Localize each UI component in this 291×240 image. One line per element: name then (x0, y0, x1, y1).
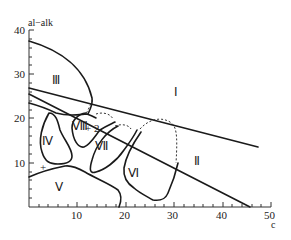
point-label-2: + 2 (85, 122, 99, 134)
x-tick-40: 40 (216, 209, 228, 221)
x-tick-30: 30 (167, 209, 179, 221)
region-label-VII: Ⅶ (95, 139, 108, 153)
niggli-diagram: al−alk 40 30 20 10 10 20 30 40 50 c Ⅲ Ⅰ … (0, 0, 291, 240)
region-label-I: Ⅰ (174, 85, 178, 99)
region-label-VI: Ⅵ (128, 166, 139, 180)
y-tick-10: 10 (14, 157, 26, 169)
x-axis-label: c (271, 219, 276, 230)
y-tick-20: 20 (14, 112, 26, 124)
x-tick-20: 20 (119, 209, 131, 221)
x-tick-10: 10 (71, 209, 83, 221)
y-tick-30: 30 (14, 68, 26, 80)
region-label-III: Ⅲ (52, 73, 60, 87)
boundary-III (29, 41, 92, 114)
dashed-VI (140, 119, 177, 163)
y-axis-label: al−alk (28, 17, 53, 28)
region-label-V: Ⅴ (55, 180, 64, 194)
boundaries (29, 41, 258, 207)
point-marker: + (40, 161, 46, 173)
y-tick-40: 40 (14, 24, 26, 36)
dashed-VIII (96, 113, 113, 119)
region-label-II: Ⅱ (194, 154, 200, 168)
region-label-IV: Ⅳ (42, 134, 53, 148)
